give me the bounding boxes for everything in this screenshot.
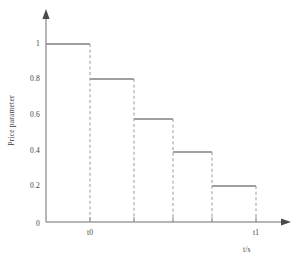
step-chart-plot xyxy=(0,0,306,264)
x-tick-label-t1: t1 xyxy=(244,228,268,237)
y-tick-label-1: 1 xyxy=(18,39,40,48)
y-tick-label-0.2: 0.2 xyxy=(14,181,40,190)
step-treads xyxy=(46,44,256,186)
x-axis xyxy=(46,218,291,225)
x-tick-label-t0: t0 xyxy=(78,228,102,237)
y-tick-label-0.6: 0.6 xyxy=(14,110,40,119)
x-axis-title: t/s xyxy=(243,245,251,254)
y-tick-label-0: 0 xyxy=(18,219,40,228)
y-axis-arrow-icon xyxy=(42,9,49,19)
x-axis-arrow-icon xyxy=(281,218,291,225)
y-tick-label-0.4: 0.4 xyxy=(14,146,40,155)
chart-figure: 1 0.8 0.6 0.4 0.2 0 t0 t1 Price paramete… xyxy=(0,0,306,264)
y-tick-label-0.8: 0.8 xyxy=(14,74,40,83)
step-risers xyxy=(90,44,256,222)
y-axis xyxy=(42,9,49,222)
y-axis-title: Price parameter xyxy=(7,71,16,171)
